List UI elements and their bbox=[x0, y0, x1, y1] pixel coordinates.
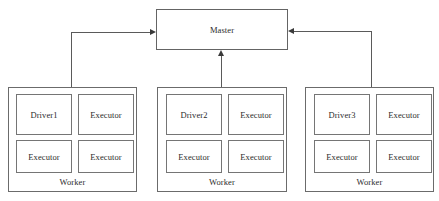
executor-box-3c: Executor bbox=[376, 140, 432, 173]
executor-box-1b: Executor bbox=[16, 140, 72, 173]
worker-node-right: Driver3 Executor Executor Executor Worke… bbox=[305, 87, 434, 192]
arrowhead-middle-to-master bbox=[218, 50, 224, 56]
connector-left-horizontal bbox=[71, 32, 150, 33]
connector-left-vertical bbox=[71, 32, 72, 88]
connector-middle-vertical bbox=[221, 56, 222, 88]
connector-right-horizontal bbox=[294, 31, 372, 32]
executor-label-3c: Executor bbox=[377, 153, 431, 162]
worker-node-middle: Driver2 Executor Executor Executor Worke… bbox=[157, 87, 287, 192]
worker-label-right: Worker bbox=[306, 178, 433, 187]
executor-label-2b: Executor bbox=[167, 153, 221, 162]
worker-label-middle: Worker bbox=[158, 178, 286, 187]
master-label: Master bbox=[157, 26, 287, 35]
executor-label-1c: Executor bbox=[79, 153, 133, 162]
executor-label-1a: Executor bbox=[79, 111, 133, 120]
executor-label-1b: Executor bbox=[17, 153, 71, 162]
executor-box-3a: Executor bbox=[376, 94, 432, 135]
driver-label-3: Driver3 bbox=[315, 111, 369, 120]
driver-box-3: Driver3 bbox=[314, 94, 370, 135]
executor-box-2c: Executor bbox=[228, 140, 284, 173]
driver-box-2: Driver2 bbox=[166, 94, 222, 135]
arrowhead-right-to-master bbox=[288, 28, 294, 34]
executor-box-3b: Executor bbox=[314, 140, 370, 173]
executor-box-1c: Executor bbox=[78, 140, 134, 173]
executor-box-2b: Executor bbox=[166, 140, 222, 173]
driver-label-2: Driver2 bbox=[167, 111, 221, 120]
worker-label-left: Worker bbox=[9, 178, 136, 187]
executor-box-1a: Executor bbox=[78, 94, 134, 135]
driver-box-1: Driver1 bbox=[16, 94, 72, 135]
master-node: Master bbox=[156, 9, 288, 50]
worker-node-left: Driver1 Executor Executor Executor Worke… bbox=[8, 87, 137, 192]
executor-label-3a: Executor bbox=[377, 111, 431, 120]
executor-label-2c: Executor bbox=[229, 153, 283, 162]
diagram-canvas: Master Driver1 Executor Executor Executo… bbox=[0, 0, 439, 201]
executor-label-3b: Executor bbox=[315, 153, 369, 162]
arrowhead-left-to-master bbox=[150, 29, 156, 35]
driver-label-1: Driver1 bbox=[17, 111, 71, 120]
executor-label-2a: Executor bbox=[229, 111, 283, 120]
connector-right-vertical bbox=[371, 31, 372, 88]
executor-box-2a: Executor bbox=[228, 94, 284, 135]
